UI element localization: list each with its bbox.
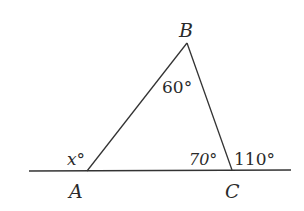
- baseline: [29, 170, 291, 171]
- angle-label-c-exterior: 110°: [234, 149, 275, 169]
- angle-label-x: x°: [67, 149, 85, 169]
- triangle-diagram: B 60° x° 70° 110° A C: [0, 0, 304, 211]
- vertex-label-a: A: [67, 180, 83, 202]
- side-ab: [87, 43, 187, 171]
- angle-label-c-interior: 70°: [189, 150, 217, 169]
- angle-label-b: 60°: [162, 77, 192, 97]
- vertex-label-b: B: [178, 19, 193, 41]
- vertex-label-c: C: [225, 180, 240, 202]
